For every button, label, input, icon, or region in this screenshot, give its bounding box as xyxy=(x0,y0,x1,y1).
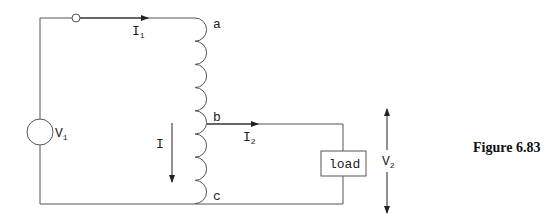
load-label: load xyxy=(329,157,360,172)
node-b-label: b xyxy=(213,110,221,125)
autotransformer-circuit-figure: a b c V1 I1 I2 I load V2 Figure 6.83 xyxy=(0,0,560,221)
coil-winding xyxy=(195,18,207,204)
i-label: I xyxy=(156,137,164,152)
node-a-label: a xyxy=(213,17,221,32)
node-c-label: c xyxy=(213,189,221,204)
i1-label: I1 xyxy=(132,24,145,40)
i2-label: I2 xyxy=(243,130,256,146)
tap-wire xyxy=(207,124,343,151)
terminal-icon xyxy=(72,14,80,22)
v2-label: V2 xyxy=(382,154,395,170)
bottom-wire xyxy=(40,176,343,204)
v1-label: V1 xyxy=(55,126,68,142)
figure-caption: Figure 6.83 xyxy=(473,140,540,155)
voltage-source-icon xyxy=(27,119,53,145)
